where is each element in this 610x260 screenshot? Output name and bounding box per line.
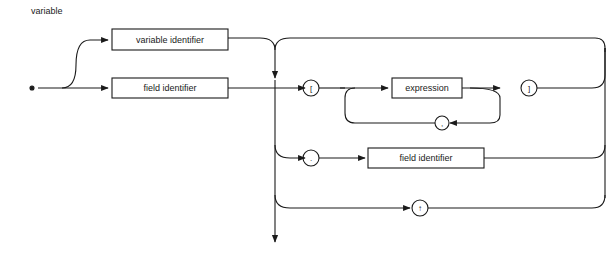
up-arrow-text: ↑ [418, 204, 422, 213]
field-identifier-label: field identifier [143, 83, 196, 93]
comma-text: , [441, 119, 443, 128]
variable-identifier-label: variable identifier [136, 35, 204, 45]
field-identifier-label-2: field identifier [399, 153, 452, 163]
open-bracket-text: [ [310, 84, 313, 93]
expression-label: expression [405, 83, 449, 93]
close-bracket-text: ] [528, 84, 530, 93]
syntax-diagram: variable identifier field identifier exp… [0, 0, 610, 260]
start-dot-icon [30, 86, 34, 90]
period-text: . [310, 154, 312, 163]
